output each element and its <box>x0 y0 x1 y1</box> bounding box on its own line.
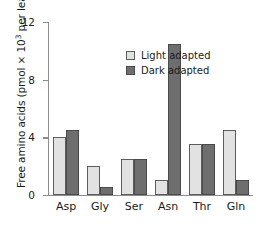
x-tick-label-gln: Gln <box>219 200 253 213</box>
bar-light-adapted-asn <box>155 180 168 194</box>
x-tick-label-asn: Asn <box>151 200 185 213</box>
x-axis-line <box>48 195 253 196</box>
y-tick-12: 12 <box>43 22 48 23</box>
bar-dark-adapted-asp <box>66 130 79 195</box>
bar-dark-adapted-ser <box>134 159 147 195</box>
bar-group-gly <box>83 22 117 195</box>
bar-dark-adapted-gly <box>100 187 113 194</box>
y-tick-8: 8 <box>43 80 48 81</box>
bar-light-adapted-ser <box>121 159 134 195</box>
y-tick-label-12: 12 <box>22 16 35 28</box>
legend-entry-dark-adapted: Dark adapted <box>126 64 211 77</box>
bar-chart-figure: Free amino acids (pmol × 103 per leaf) 1… <box>0 0 267 236</box>
bar-light-adapted-gly <box>87 166 100 195</box>
y-tick-label-0: 0 <box>28 189 35 201</box>
chart-legend: Light adapted Dark adapted <box>126 49 211 79</box>
bar-group-thr <box>185 22 219 195</box>
bar-group-asn <box>151 22 185 195</box>
legend-swatch-dark-adapted-icon <box>126 66 135 75</box>
y-tick-label-8: 8 <box>28 74 35 86</box>
y-axis-title-exponent: 3 <box>14 35 23 40</box>
bar-series-container <box>49 22 253 195</box>
y-axis-title-before: Free amino acids (pmol × 10 <box>15 39 27 188</box>
legend-label-light-adapted: Light adapted <box>141 50 211 61</box>
x-tick-label-asp: Asp <box>49 200 83 213</box>
legend-label-dark-adapted: Dark adapted <box>141 65 209 76</box>
legend-entry-light-adapted: Light adapted <box>126 49 211 62</box>
legend-swatch-light-adapted-icon <box>126 51 135 60</box>
bar-dark-adapted-gln <box>236 180 249 194</box>
x-tick-label-gly: Gly <box>83 200 117 213</box>
x-tick-label-thr: Thr <box>185 200 219 213</box>
plot-area: 12 8 4 0 <box>48 22 253 196</box>
bar-group-gln <box>219 22 253 195</box>
x-tick-label-ser: Ser <box>117 200 151 213</box>
y-axis-title: Free amino acids (pmol × 103 per leaf) <box>13 0 29 188</box>
bar-group-ser <box>117 22 151 195</box>
bar-group-asp <box>49 22 83 195</box>
bar-light-adapted-gln <box>223 130 236 195</box>
x-axis-tick-labels: Asp Gly Ser Asn Thr Gln <box>49 200 253 213</box>
bar-light-adapted-asp <box>53 137 66 195</box>
y-tick-label-4: 4 <box>28 131 35 143</box>
y-tick-0: 0 <box>43 195 48 196</box>
y-tick-4: 4 <box>43 137 48 138</box>
bar-dark-adapted-thr <box>202 144 215 194</box>
bar-light-adapted-thr <box>189 144 202 194</box>
